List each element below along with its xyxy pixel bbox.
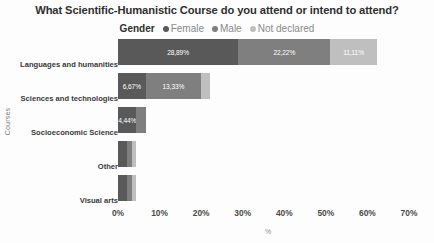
x-axis-tick: 50% xyxy=(306,208,346,218)
bar-value-label: 4,44% xyxy=(118,117,136,124)
x-axis-tick: 10% xyxy=(140,208,180,218)
chart-title: What Scientific-Humanistic Course do you… xyxy=(0,4,434,16)
bar-value-label: 11,11% xyxy=(343,49,364,56)
x-axis: 0%10%20%30%40%50%60%70% xyxy=(0,208,434,228)
x-axis-tick: 30% xyxy=(223,208,263,218)
category-label: Visual arts xyxy=(0,197,118,205)
legend-label-female: Female xyxy=(171,23,204,34)
bar-segment-not-declared[interactable]: 11,11% xyxy=(330,39,376,65)
bar-segment-female[interactable]: 28,89% xyxy=(118,39,238,65)
plot-area: Courses Languages and humanities28,89%22… xyxy=(0,48,434,208)
x-axis-tick: 70% xyxy=(389,208,429,218)
bar-rows: Languages and humanities28,89%22,22%11,1… xyxy=(0,48,434,198)
legend-label-not-declared: Not declared xyxy=(258,23,315,34)
category-label: Languages and humanities xyxy=(0,61,118,69)
bar-segment-female[interactable] xyxy=(118,141,127,167)
stacked-bar[interactable]: 4,44% xyxy=(118,107,146,133)
bar-segment-not-declared[interactable] xyxy=(201,73,210,99)
x-axis-tick: 0% xyxy=(98,208,138,218)
x-axis-title: % xyxy=(265,228,271,235)
bar-value-label: 6,67% xyxy=(123,83,141,90)
bar-segment-not-declared[interactable] xyxy=(132,175,137,201)
bar-segment-female[interactable]: 4,44% xyxy=(118,107,136,133)
category-label: Other xyxy=(0,163,118,171)
bar-segment-not-declared[interactable] xyxy=(132,141,137,167)
stacked-bar[interactable] xyxy=(118,141,136,167)
legend-swatch-male-icon xyxy=(212,26,218,32)
stacked-bar[interactable] xyxy=(118,175,136,201)
category-label: Socioeconomic Science xyxy=(0,129,118,137)
bar-value-label: 13,33% xyxy=(163,83,185,90)
legend-swatch-female-icon xyxy=(163,26,169,32)
legend-item-male[interactable]: Male xyxy=(212,23,242,34)
legend-swatch-not-declared-icon xyxy=(250,26,256,32)
bar-segment-male[interactable]: 13,33% xyxy=(146,73,201,99)
category-label: Sciences and technologies xyxy=(0,95,118,103)
bar-segment-female[interactable] xyxy=(118,175,127,201)
bar-segment-male[interactable] xyxy=(136,107,145,133)
legend-label-male: Male xyxy=(220,23,242,34)
bar-segment-male[interactable]: 22,22% xyxy=(238,39,330,65)
legend-item-not-declared[interactable]: Not declared xyxy=(250,23,315,34)
stacked-bar[interactable]: 6,67%13,33% xyxy=(118,73,210,99)
chart-legend: Gender Female Male Not declared xyxy=(0,23,434,34)
stacked-bar[interactable]: 28,89%22,22%11,11% xyxy=(118,39,377,65)
x-axis-tick: 20% xyxy=(181,208,221,218)
legend-title: Gender xyxy=(120,23,155,34)
bar-value-label: 28,89% xyxy=(167,49,189,56)
chart-root: What Scientific-Humanistic Course do you… xyxy=(0,0,434,243)
legend-item-female[interactable]: Female xyxy=(163,23,204,34)
x-axis-tick: 60% xyxy=(347,208,387,218)
bar-segment-female[interactable]: 6,67% xyxy=(118,73,146,99)
bar-value-label: 22,22% xyxy=(273,49,295,56)
x-axis-tick: 40% xyxy=(264,208,304,218)
